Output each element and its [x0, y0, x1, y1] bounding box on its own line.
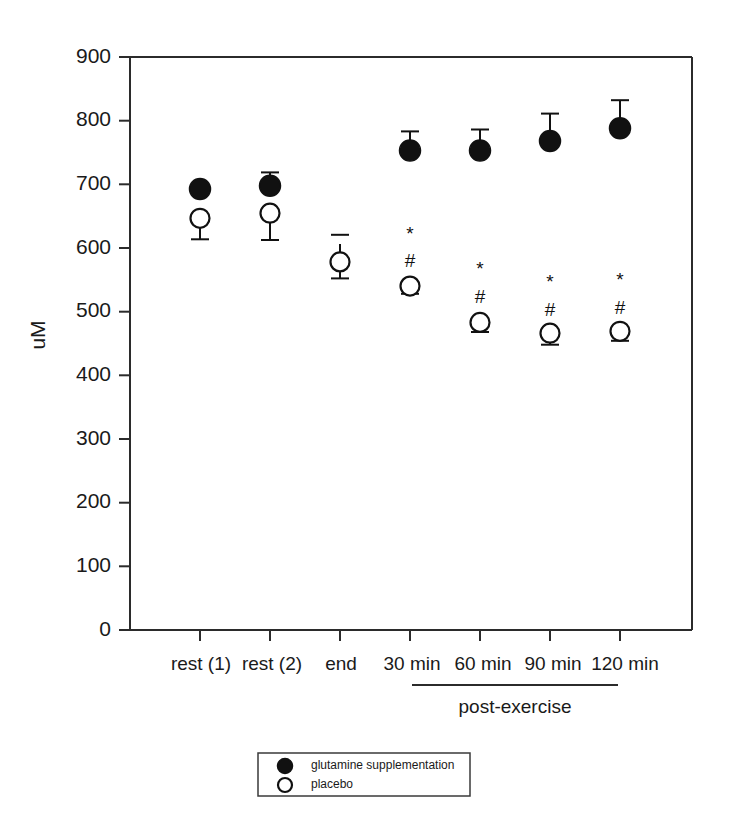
x-tick-label-end: end: [325, 653, 357, 674]
marker-open-circle: [401, 277, 420, 296]
legend-label-glutamine: glutamine supplementation: [311, 758, 454, 772]
marker-open-circle: [331, 252, 350, 271]
data-point-placebo-end: [331, 235, 350, 279]
significance-asterisk: *: [616, 269, 624, 290]
post-exercise-label: post-exercise: [459, 696, 572, 717]
data-point-placebo-60-min: * #: [471, 258, 490, 332]
significance-asterisk: *: [546, 271, 554, 292]
data-point-placebo-rest-2: [261, 204, 280, 240]
post-exercise-bracket: post-exercise: [412, 685, 618, 717]
data-point-glutamine-rest-1: [190, 179, 211, 200]
y-tick-label-700: 700: [76, 171, 111, 194]
marker-open-circle: [611, 322, 630, 341]
data-point-glutamine-rest-2: [260, 172, 281, 196]
marker-filled-circle: [470, 140, 491, 161]
data-point-glutamine-30-min: [400, 131, 421, 161]
marker-open-circle: [261, 204, 280, 223]
series-placebo: * # * # * #: [191, 204, 630, 345]
y-axis-title: uM: [26, 320, 49, 349]
significance-hash: #: [545, 299, 556, 320]
data-point-placebo-120-min: * #: [611, 269, 630, 341]
x-axis-ticks: [200, 630, 620, 641]
y-tick-label-800: 800: [76, 107, 111, 130]
y-tick-label-200: 200: [76, 489, 111, 512]
y-tick-label-400: 400: [76, 362, 111, 385]
y-tick-label-100: 100: [76, 553, 111, 576]
y-tick-label-300: 300: [76, 426, 111, 449]
marker-open-circle: [471, 313, 490, 332]
x-tick-label-120-min: 120 min: [591, 653, 659, 674]
data-point-placebo-90-min: * #: [541, 271, 560, 345]
x-axis-labels: rest (1) rest (2) end 30 min 60 min 90 m…: [171, 653, 659, 674]
legend-label-placebo: placebo: [311, 777, 353, 791]
marker-open-circle: [541, 324, 560, 343]
data-point-glutamine-90-min: [540, 114, 561, 152]
y-axis-ticks: 0 100 200 300 400 500 600 700 800 900: [76, 44, 130, 640]
marker-filled-circle: [190, 179, 211, 200]
data-point-glutamine-120-min: [610, 100, 631, 139]
marker-filled-circle: [260, 175, 281, 196]
significance-asterisk: *: [476, 258, 484, 279]
marker-filled-circle: [540, 131, 561, 152]
marker-filled-circle: [400, 140, 421, 161]
x-tick-label-rest-2: rest (2): [242, 653, 302, 674]
x-tick-label-rest-1: rest (1): [171, 653, 231, 674]
x-tick-label-30-min: 30 min: [383, 653, 440, 674]
chart-page: 0 100 200 300 400 500 600 700 800 900 uM: [0, 0, 729, 833]
y-tick-label-0: 0: [99, 617, 111, 640]
plasma-glutamine-chart: 0 100 200 300 400 500 600 700 800 900 uM: [0, 0, 729, 833]
x-tick-label-60-min: 60 min: [454, 653, 511, 674]
marker-filled-circle: [610, 118, 631, 139]
legend-open-circle-icon: [278, 778, 292, 792]
significance-hash: #: [615, 297, 626, 318]
data-point-glutamine-60-min: [470, 130, 491, 162]
legend-entry-placebo: placebo: [278, 777, 353, 792]
series-glutamine-supplementation: [190, 100, 631, 199]
marker-open-circle: [191, 209, 210, 228]
y-tick-label-600: 600: [76, 235, 111, 258]
legend-filled-circle-icon: [278, 759, 293, 774]
chart-legend: glutamine supplementation placebo: [258, 753, 470, 796]
significance-asterisk: *: [406, 223, 414, 244]
significance-hash: #: [475, 286, 486, 307]
y-tick-label-900: 900: [76, 44, 111, 67]
y-tick-label-500: 500: [76, 298, 111, 321]
significance-hash: #: [405, 250, 416, 271]
x-tick-label-90-min: 90 min: [524, 653, 581, 674]
data-point-placebo-rest-1: [191, 209, 210, 240]
data-point-placebo-30-min: * #: [401, 223, 420, 296]
